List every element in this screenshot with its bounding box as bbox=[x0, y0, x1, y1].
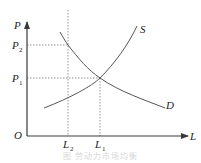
supply-curve-label: S bbox=[140, 23, 146, 35]
origin-label: O bbox=[14, 129, 22, 141]
p2-label-sub: 2 bbox=[19, 46, 23, 54]
p2-label: P 2 bbox=[11, 39, 23, 54]
l2-label-base: L bbox=[62, 138, 69, 150]
axes bbox=[27, 22, 188, 136]
supply-curve bbox=[44, 26, 137, 108]
y-axis-label: P bbox=[13, 19, 21, 31]
diagram-canvas: P L O P 2 P 1 L 2 L 1 S D bbox=[0, 0, 201, 163]
p1-label-sub: 1 bbox=[19, 79, 23, 87]
l1-label-base: L bbox=[94, 138, 101, 150]
figure-caption: 图 劳动力市场均衡 bbox=[0, 150, 201, 161]
x-axis-label: L bbox=[189, 130, 196, 142]
p1-label-base: P bbox=[11, 72, 19, 84]
p1-label: P 1 bbox=[11, 72, 23, 87]
supply-demand-diagram: P L O P 2 P 1 L 2 L 1 S D 图 劳动力市场均衡 bbox=[0, 0, 201, 163]
demand-curve-label: D bbox=[165, 99, 174, 111]
guide-lines bbox=[27, 10, 100, 136]
demand-curve bbox=[60, 32, 165, 108]
p2-label-base: P bbox=[11, 39, 19, 51]
